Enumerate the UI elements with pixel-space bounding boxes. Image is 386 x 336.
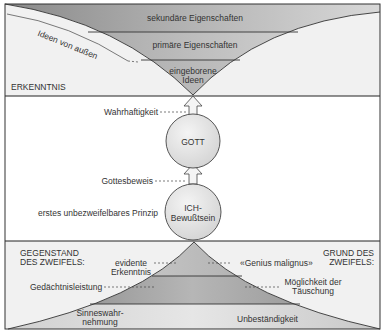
gott-label: GOTT [166, 137, 220, 147]
gegenstand-title-line2: DES ZWEIFELS: [20, 257, 85, 267]
gedaechtnisleistung-label: Gedächtnisleistung [30, 282, 102, 292]
descartes-diagram: sekundäre Eigenschaften primäre Eigensch… [0, 0, 386, 336]
taeuschung-line2: Täuschung [278, 286, 348, 296]
sinneswahrnehmung-line2: nehmung [70, 317, 130, 327]
unbestaendigkeit-label: Unbeständigkeit [237, 314, 298, 324]
ich-label-line2: Bewußtsein [166, 213, 220, 223]
band-eingeborene-line2: Ideen [160, 75, 226, 85]
gottesbeweis-label: Gottesbeweis [90, 176, 153, 186]
wahrhaftigkeit-label: Wahrhaftigkeit [90, 107, 158, 117]
erstes-prinzip-label: erstes unbezweifelbares Prinzip [38, 208, 158, 218]
band-primaere: primäre Eigenschaften [140, 40, 250, 50]
erkenntnis-title: ERKENNTNIS [11, 82, 66, 92]
evidente-erkenntnis-line2: Erkenntnis [106, 267, 156, 277]
ich-label-line1: ICH- [166, 203, 220, 213]
genius-malignus-label: «Genius malignus» [240, 258, 313, 268]
band-sekundaere: sekundäre Eigenschaften [140, 13, 250, 23]
